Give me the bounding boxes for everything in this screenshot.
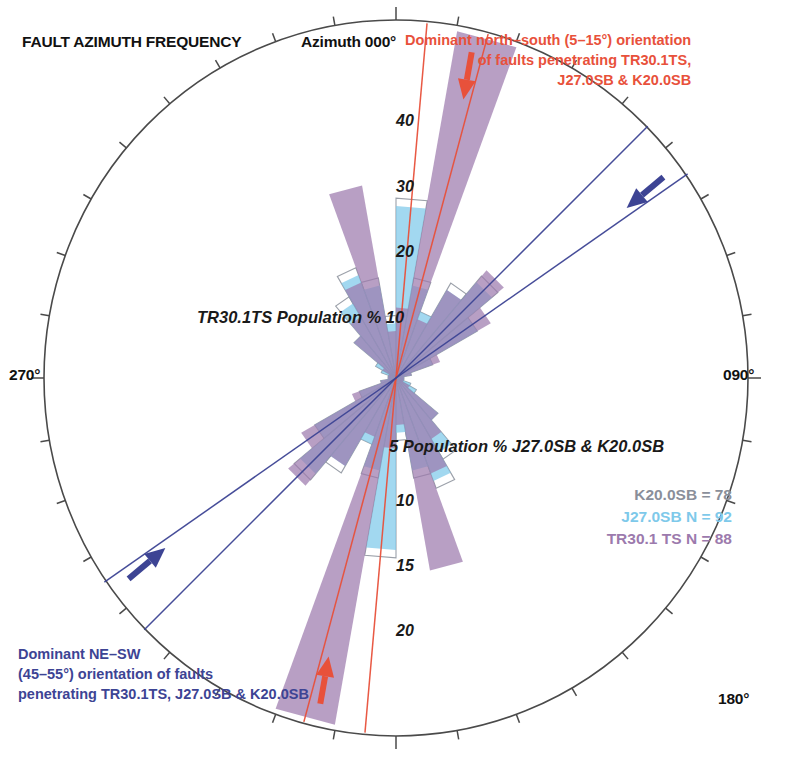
annotation-north-south-line3: J27.0SB & K20.0SB: [405, 70, 691, 90]
annotation-ne-sw-line3: penetrating TR30.1TS, J27.0SB & K20.0SB: [18, 684, 309, 704]
radial-axis-label-bottom: 5 Population % J27.0SB & K20.0SB: [389, 437, 664, 456]
radial-tick-10-lower: 10: [396, 492, 414, 510]
radial-tick-20-lower: 20: [396, 622, 414, 640]
radial-tick-15-lower: 15: [396, 557, 414, 575]
radial-tick-20: 20: [396, 243, 414, 261]
azimuth-west-label: 270°: [9, 366, 40, 384]
annotation-north-south-line2: of faults penetrating TR30.1TS,: [405, 50, 691, 70]
radial-axis-label-top: TR30.1TS Population % 10: [197, 308, 404, 327]
annotation-ne-sw-line1: Dominant NE–SW: [18, 644, 309, 664]
page-title: FAULT AZIMUTH FREQUENCY: [22, 33, 241, 51]
radial-tick-40: 40: [396, 112, 414, 130]
annotation-ne-sw: Dominant NE–SW (45–55°) orientation of f…: [18, 644, 309, 704]
annotation-north-south: Dominant north–south (5–15°) orientation…: [405, 30, 691, 90]
azimuth-south-label: 180°: [718, 690, 749, 708]
legend: K20.0SB = 78 J27.0SB N = 92 TR30.1 TS N …: [512, 484, 732, 550]
azimuth-east-label: 090°: [723, 366, 754, 384]
radial-tick-30: 30: [396, 178, 414, 196]
legend-item-k20: K20.0SB = 78: [512, 484, 732, 506]
legend-item-tr30: TR30.1 TS N = 88: [512, 528, 732, 550]
annotation-north-south-line1: Dominant north–south (5–15°) orientation: [405, 30, 691, 50]
annotation-ne-sw-line2: (45–55°) orientation of faults: [18, 664, 309, 684]
azimuth-north-label: Azimuth 000°: [301, 33, 396, 51]
rose-diagram-figure: FAULT AZIMUTH FREQUENCY Azimuth 000° 090…: [0, 0, 800, 764]
legend-item-j27: J27.0SB N = 92: [512, 506, 732, 528]
